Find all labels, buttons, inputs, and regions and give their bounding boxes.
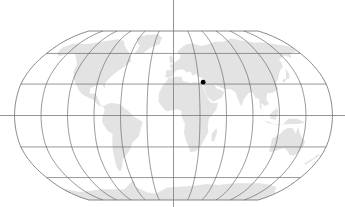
landmass-new-zealand xyxy=(304,154,320,164)
landmass-greenland xyxy=(135,34,162,53)
landmass-madagascar xyxy=(211,128,217,142)
landmass-indonesia xyxy=(257,110,305,125)
landmass-south-america xyxy=(102,103,143,172)
landmass-north-america xyxy=(57,39,131,107)
marker-layer xyxy=(201,80,206,85)
landmass-borneo xyxy=(270,108,279,120)
location-marker xyxy=(201,80,206,85)
world-map xyxy=(0,0,345,207)
landmass-australia xyxy=(269,127,305,155)
land-layer xyxy=(57,34,320,200)
landmass-japan xyxy=(282,68,289,83)
